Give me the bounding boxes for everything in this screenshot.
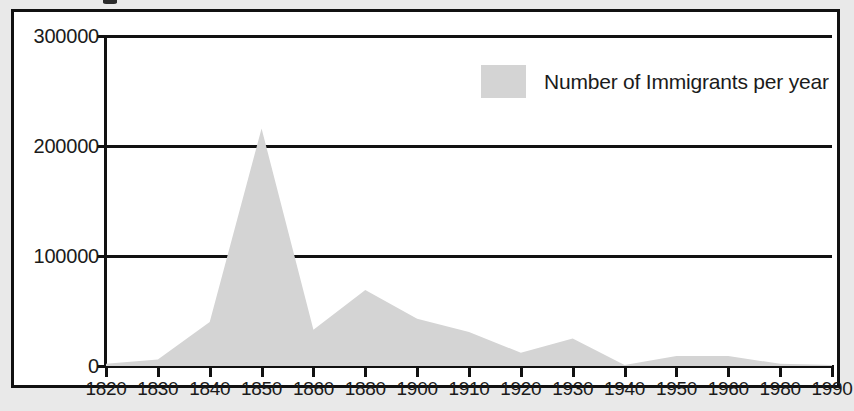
x-tick-label: 1940: [604, 378, 645, 400]
x-tick: [727, 366, 730, 377]
x-tick: [831, 366, 834, 377]
chart-legend: Number of Immigrants per year: [481, 65, 829, 98]
x-tick: [624, 366, 627, 377]
area-polygon: [106, 128, 832, 366]
x-tick-label: 1860: [293, 378, 334, 400]
x-tick-label: 1930: [552, 378, 593, 400]
x-tick: [779, 366, 782, 377]
x-tick: [364, 366, 367, 377]
x-tick-label: 1840: [189, 378, 230, 400]
figure-frame: 0100000200000300000 18201830184018501860…: [11, 9, 840, 388]
y-tick-label: 0: [88, 355, 99, 378]
y-tick-label: 300000: [33, 25, 99, 48]
x-tick-label: 1830: [137, 378, 178, 400]
x-tick: [105, 366, 108, 377]
x-tick: [675, 366, 678, 377]
x-tick-label: 1820: [85, 378, 126, 400]
x-tick: [261, 366, 264, 377]
series-color-swatch: [481, 65, 526, 98]
x-tick: [157, 366, 160, 377]
x-tick-label: 1980: [760, 378, 801, 400]
y-tick-label: 100000: [33, 245, 99, 268]
x-tick-label: 1920: [500, 378, 541, 400]
x-tick: [520, 366, 523, 377]
x-tick: [312, 366, 315, 377]
x-tick: [209, 366, 212, 377]
x-tick-label: 1880: [345, 378, 386, 400]
y-tick-label: 200000: [33, 135, 99, 158]
x-tick-label: 1900: [397, 378, 438, 400]
x-tick-label: 1990: [811, 378, 852, 400]
x-tick-label: 1950: [656, 378, 697, 400]
clipped-title-fragment: [103, 0, 117, 4]
x-tick-label: 1960: [708, 378, 749, 400]
x-tick: [572, 366, 575, 377]
legend-label: Number of Immigrants per year: [544, 70, 829, 94]
x-tick: [468, 366, 471, 377]
x-tick: [416, 366, 419, 377]
plot-area-wrapper: 0100000200000300000 18201830184018501860…: [14, 12, 837, 385]
x-tick-label: 1850: [241, 378, 282, 400]
x-tick-label: 1910: [448, 378, 489, 400]
